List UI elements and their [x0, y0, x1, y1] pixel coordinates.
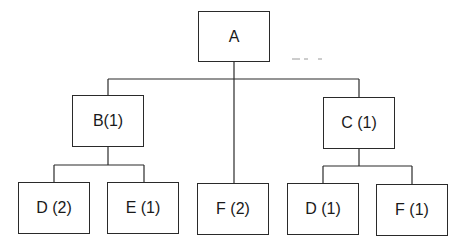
node-c-label: C (1) — [341, 114, 377, 132]
node-b-label: B(1) — [93, 112, 123, 130]
node-e1: E (1) — [107, 182, 179, 234]
node-f2-label: F (2) — [216, 200, 250, 218]
node-a-label: A — [229, 28, 240, 46]
node-b: B(1) — [72, 95, 144, 147]
node-d1-label: D (1) — [305, 200, 341, 218]
node-e1-label: E (1) — [126, 199, 161, 217]
node-c: C (1) — [323, 97, 395, 149]
node-d2: D (2) — [18, 182, 90, 234]
node-f2: F (2) — [197, 183, 269, 235]
node-d2-label: D (2) — [36, 199, 72, 217]
node-a: A — [198, 11, 270, 62]
node-f1-label: F (1) — [395, 201, 429, 219]
node-f1: F (1) — [376, 184, 448, 236]
node-d1: D (1) — [287, 183, 359, 235]
